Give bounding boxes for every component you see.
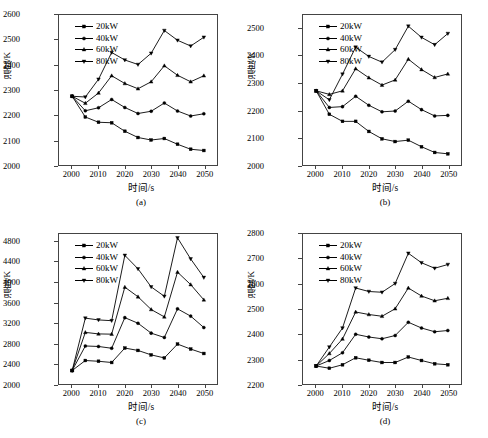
legend-label: 40kW [96,252,118,264]
triangle-up-marker [163,64,167,67]
circle-marker [189,315,192,318]
y-tick-mark [54,65,58,66]
circle-marker [394,109,397,112]
x-tick-mark [205,384,206,388]
legend-label: 20kW [96,21,118,33]
triangle-up-marker [176,270,180,273]
x-tick-mark [98,384,99,388]
circle-marker [97,106,100,109]
square-marker [176,143,179,146]
y-tick-mark [54,241,58,242]
square-marker [202,149,205,152]
circle-marker [354,333,357,336]
y-tick-mark [54,344,58,345]
x-tick-mark [151,165,152,169]
triangle-down-marker [202,36,206,39]
y-tick-label: 4400 [0,257,20,266]
y-tick-label: 2300 [220,356,264,365]
square-marker [84,116,87,119]
triangle-down-marker [318,56,338,67]
legend-label: 60kW [96,44,118,56]
square-marker [189,348,192,351]
legend-label: 80kW [96,275,118,287]
circle-marker [84,109,87,112]
triangle-up-marker [74,263,94,274]
circle-marker [150,110,153,113]
triangle-up-marker [446,72,450,75]
circle-marker [97,345,100,348]
y-tick-label: 4800 [0,237,20,246]
square-marker [137,349,140,352]
triangle-down-marker [433,43,437,46]
y-tick-mark [298,334,302,335]
triangle-up-marker [74,44,94,55]
x-tick-label: 2050 [185,389,225,398]
legend-item: 40kW [318,33,362,45]
square-marker [137,136,140,139]
circle-marker [74,252,94,263]
square-marker [189,148,192,151]
subcaption-a: (a) [0,197,244,207]
y-tick-mark [54,261,58,262]
x-tick-mark [151,384,152,388]
square-marker [202,352,205,355]
square-marker [163,356,166,359]
y-tick-mark [54,90,58,91]
circle-marker [136,112,139,115]
y-tick-mark [298,360,302,361]
y-tick-mark [298,55,302,56]
square-marker [381,361,384,364]
circle-marker [150,332,153,335]
square-marker [318,21,338,32]
y-tick-mark [54,141,58,142]
square-marker [123,130,126,133]
data-series [71,95,206,152]
legend-item: 60kW [318,44,362,56]
legend-item: 20kW [74,240,118,252]
square-marker [367,130,370,133]
circle-marker [420,326,423,329]
square-marker [446,363,449,366]
y-tick-label: 2400 [0,61,20,70]
legend-d: 20kW40kW60kW80kW [316,239,364,287]
x-axis-label: 时间/s [0,402,244,413]
y-tick-mark [298,284,302,285]
circle-marker [446,329,449,332]
y-tick-label: 2300 [220,79,264,88]
legend-item: 80kW [74,56,118,68]
triangle-up-marker [407,286,411,289]
circle-marker [380,110,383,113]
square-marker [407,139,410,142]
chart-panel-c: 温度/K 20kW40kW60kW80kW 时间/s (c) 200024002… [0,219,244,438]
legend-item: 40kW [318,252,362,264]
square-marker [176,343,179,346]
circle-marker [123,316,126,319]
triangle-down-marker [380,61,384,64]
legend-item: 60kW [74,263,118,275]
x-tick-mark [422,384,423,388]
circle-marker [202,112,205,115]
x-tick-label: 2050 [429,389,469,398]
y-tick-label: 2100 [0,137,20,146]
square-marker [341,120,344,123]
square-marker [110,121,113,124]
x-tick-mark [315,165,316,169]
legend-label: 40kW [340,252,362,264]
y-tick-mark [54,14,58,15]
circle-marker [328,359,331,362]
x-tick-mark [98,165,99,169]
series-line [316,91,448,154]
y-tick-mark [54,166,58,167]
legend-label: 40kW [96,33,118,45]
y-tick-mark [54,303,58,304]
triangle-down-marker [318,275,338,286]
square-marker [110,361,113,364]
legend-a: 20kW40kW60kW80kW [72,20,120,68]
triangle-up-marker [354,310,358,313]
x-tick-mark [178,165,179,169]
y-tick-label: 4000 [0,278,20,287]
legend-item: 20kW [318,240,362,252]
square-marker [407,356,410,359]
series-line [72,344,204,370]
triangle-up-marker [110,74,114,77]
